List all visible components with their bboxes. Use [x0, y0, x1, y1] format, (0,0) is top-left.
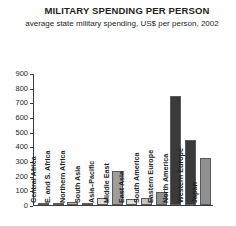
bar-category-label: North America — [160, 154, 171, 203]
y-tick — [30, 147, 33, 148]
y-tick-label: 400 — [15, 144, 28, 152]
bar — [38, 203, 49, 205]
y-tick-label: 100 — [15, 188, 28, 196]
y-tick-label: 300 — [15, 158, 28, 166]
y-tick — [30, 118, 33, 119]
bar-series: Central AfricaE. and S. AfricaNorthern A… — [34, 74, 213, 205]
chart-page: MILITARY SPENDING PER PERSON average sta… — [0, 0, 236, 227]
y-tick — [30, 206, 33, 207]
bar-category-label: E. and S. Africa — [42, 151, 53, 203]
plot-area: 0100200300400500600700800900 Central Afr… — [33, 74, 213, 206]
bar-category-label: Middle East — [101, 163, 112, 203]
y-tick-label: 700 — [15, 100, 28, 108]
y-tick — [30, 74, 33, 75]
bar — [82, 203, 93, 205]
bar-slot: Japan — [200, 74, 211, 205]
bar — [200, 158, 211, 205]
y-tick-label: 0 — [24, 202, 28, 210]
bar — [53, 203, 64, 205]
y-tick — [30, 133, 33, 134]
bar-category-label: Eastern Europe — [145, 150, 156, 203]
y-tick — [30, 103, 33, 104]
y-tick-label: 800 — [15, 85, 28, 93]
bar-category-label: Central Africa — [28, 156, 39, 203]
bar-category-label: Western Europe — [175, 148, 186, 203]
bar-category-label: Northern Africa — [57, 151, 68, 203]
bar-category-label: South Asia — [72, 166, 83, 203]
bar-category-label: South America — [131, 153, 142, 203]
x-axis-line — [33, 205, 213, 206]
y-tick-label: 500 — [15, 129, 28, 137]
chart-subtitle: average state military spending, US$ per… — [0, 19, 236, 28]
bottom-divider — [0, 226, 236, 227]
y-tick-label: 900 — [15, 70, 28, 78]
y-tick — [30, 89, 33, 90]
y-tick-label: 200 — [15, 173, 28, 181]
bar-category-label: Japan — [189, 182, 200, 203]
chart-title: MILITARY SPENDING PER PERSON — [0, 5, 236, 16]
bar-category-label: East Asia — [116, 171, 127, 203]
y-tick-label: 600 — [15, 114, 28, 122]
bar-category-label: Asia–Pacific — [86, 161, 97, 203]
